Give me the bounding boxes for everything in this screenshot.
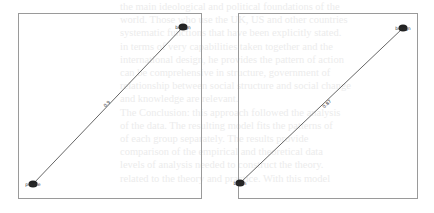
- node-label: benign: [175, 25, 191, 30]
- edge-weight-label: 0.87: [322, 99, 333, 110]
- edge-weight-label: 0.9: [103, 100, 112, 109]
- node-label: berlin: [234, 181, 247, 186]
- network-graph: 0.9benignpeople0.87benignberlin: [0, 0, 434, 213]
- node-label: people: [25, 182, 40, 187]
- node-label: benign: [395, 26, 411, 31]
